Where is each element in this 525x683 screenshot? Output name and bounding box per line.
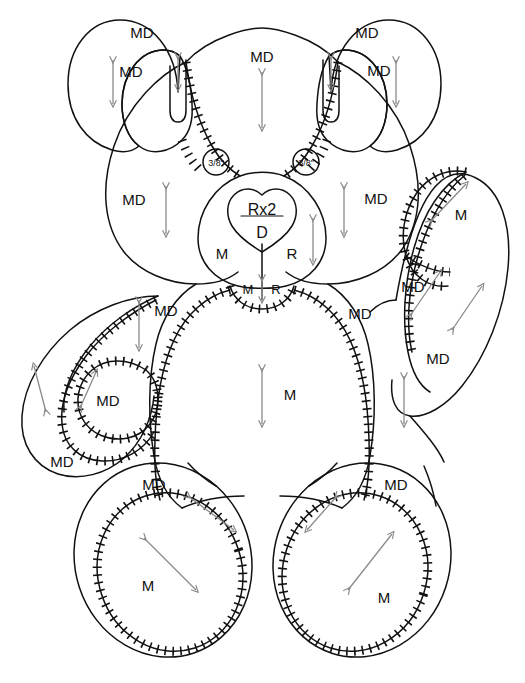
hatch-leg-right-pad <box>262 474 448 671</box>
label-arm-right-pad: M <box>455 206 468 223</box>
label-arm-left-pad: MD <box>96 392 119 409</box>
arm-right-lower-grainline-icon <box>452 286 482 330</box>
label-arm-right-lower: MD <box>426 350 449 367</box>
arm-right-body-join <box>370 300 396 312</box>
label-arm-right-mid: MD <box>401 278 424 295</box>
label-head-left: MD <box>122 191 145 208</box>
label-muzzle-numerator: Rx2 <box>248 201 277 218</box>
leg-left-body-join <box>188 463 216 486</box>
leg-left-outer-grainline-icon <box>188 496 234 530</box>
label-muzzle-right: R <box>287 245 298 262</box>
label-chin-right: R <box>271 282 280 297</box>
label-leg-left-outer: MD <box>142 476 165 493</box>
label-ear-left-outer: MD <box>130 24 153 41</box>
hatch-ear-left-join <box>182 140 200 170</box>
label-muzzle-denominator: D <box>256 224 268 241</box>
label-ear-left-inner: MD <box>119 63 142 80</box>
label-eye-right: 3/8" <box>298 158 314 168</box>
label-arm-left-outer: MD <box>50 453 73 470</box>
leg-right-upper-seam <box>424 466 436 506</box>
label-leg-right-outer: MD <box>384 476 407 493</box>
label-shoulder-right: MD <box>348 305 371 322</box>
label-head-top: MD <box>250 48 273 65</box>
leg-right-body-join <box>309 463 337 486</box>
leg-right-foot-pad <box>262 474 448 671</box>
label-leg-right-pad: M <box>378 589 391 606</box>
label-ear-right-outer: MD <box>355 24 378 41</box>
muzzle-outline <box>228 189 297 252</box>
label-muzzle-left: M <box>216 245 229 262</box>
arm-right-tail <box>410 416 444 462</box>
label-leg-left-pad: M <box>142 577 155 594</box>
label-body-center: M <box>284 386 297 403</box>
arm-left-outer-grainline-icon <box>34 366 46 412</box>
leg-right-pad-grainline-icon <box>348 534 392 590</box>
hatch-leg-left-pad <box>77 474 263 671</box>
leg-left-foot-pad <box>77 474 263 671</box>
head-right-outline <box>286 62 418 284</box>
label-eye-left: 3/8" <box>208 158 224 168</box>
arm-left-pad-grainline-icon <box>80 372 96 408</box>
piece-arm-right[interactable] <box>370 171 509 462</box>
label-chin-left: M <box>243 282 254 297</box>
label-head-right: MD <box>364 190 387 207</box>
pattern-page: MD MD MD MD MD MD MD Rx2 D M R M R 3/8" … <box>0 0 525 683</box>
label-shoulder-left: MD <box>154 302 177 319</box>
teddy-bear-pattern-diagram: MD MD MD MD MD MD MD Rx2 D M R M R 3/8" … <box>0 0 525 683</box>
label-ear-right-inner: MD <box>367 62 390 79</box>
